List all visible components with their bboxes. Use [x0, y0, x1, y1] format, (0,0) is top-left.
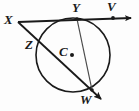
- label-point-y: Y: [72, 1, 80, 14]
- secant-ray-xzw: [18, 22, 101, 99]
- label-point-w: W: [80, 93, 92, 106]
- label-point-z: Z: [25, 38, 33, 51]
- point-marker-c: [70, 53, 74, 57]
- geometry-canvas: [0, 0, 139, 111]
- label-point-c: C: [59, 45, 68, 58]
- label-point-v: V: [107, 0, 116, 13]
- geometry-figure: X Y V Z C W: [0, 0, 139, 111]
- label-point-x: X: [4, 13, 13, 26]
- point-marker-v: [111, 16, 115, 20]
- point-marker-y: [75, 17, 79, 21]
